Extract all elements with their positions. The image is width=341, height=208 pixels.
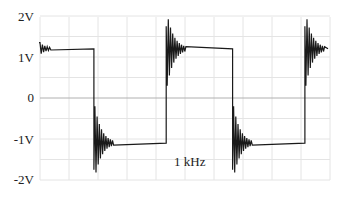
y-tick-minus-2v: -2V (0, 172, 34, 188)
y-tick-1v: 1V (0, 50, 34, 66)
y-tick-2v: 2V (0, 9, 34, 25)
oscilloscope-plot (0, 0, 341, 208)
waveform-trace (39, 19, 328, 172)
y-tick-minus-1v: -1V (0, 132, 34, 148)
frequency-label: 1 kHz (174, 154, 205, 170)
y-tick-0: 0 (0, 90, 34, 106)
